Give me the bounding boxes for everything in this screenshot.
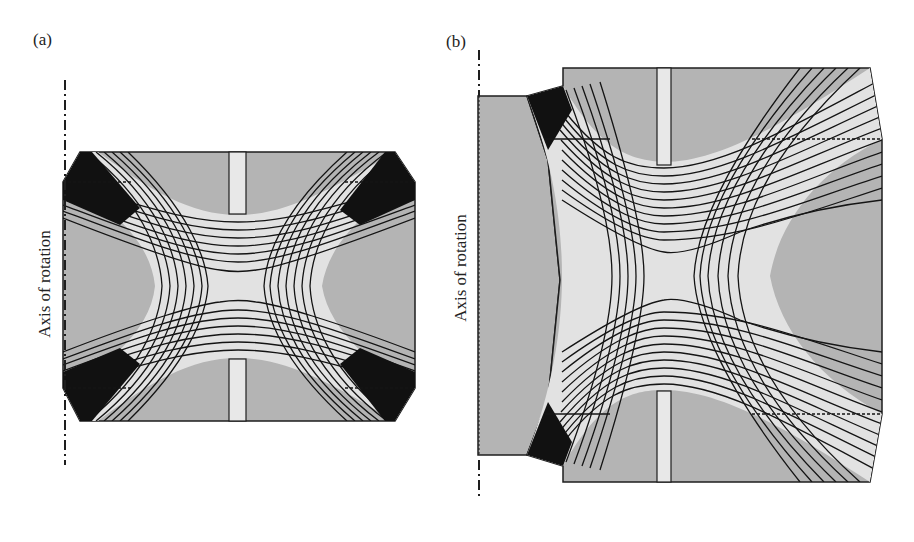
slit-bottom-a — [229, 359, 246, 421]
slit-top-a — [229, 152, 246, 214]
slit-bottom-b — [657, 391, 671, 482]
slit-top-b — [657, 68, 671, 165]
panel-b — [478, 50, 882, 500]
panel-a — [63, 80, 415, 465]
diagram-canvas — [0, 0, 914, 542]
